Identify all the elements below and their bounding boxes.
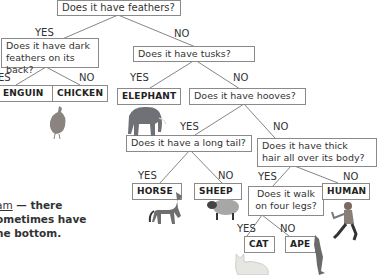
label-yes-hair: YES	[258, 171, 277, 182]
caption-line-1-rest: — there	[13, 199, 63, 211]
caption-line-3: he bottom.	[0, 226, 86, 240]
elephant-picture	[125, 104, 167, 138]
label-no-walk: NO	[280, 223, 295, 234]
cat-picture	[232, 250, 272, 275]
label-yes-walk: YES	[237, 223, 256, 234]
horse-picture	[148, 190, 188, 228]
human-picture	[330, 200, 364, 242]
label-no-feathers: NO	[174, 28, 189, 39]
label-yes-hooves: YES	[180, 121, 199, 132]
question-four-legs: Does it walk on four legs?	[248, 186, 324, 216]
sheep-picture	[205, 197, 241, 221]
label-yes-tail: YES	[138, 170, 157, 181]
question-dark-feathers: Does it have dark feathers on its back?	[1, 38, 99, 68]
leaf-human: HUMAN	[322, 183, 370, 200]
caption-line-2: ometimes have	[0, 212, 86, 226]
leaf-ape: APE	[285, 236, 316, 253]
question-hair-line1: Does it have thick	[262, 140, 372, 152]
caption-line-1: am — there	[0, 198, 86, 212]
label-no-hair: NO	[343, 171, 358, 182]
question-feathers: Does it have feathers?	[57, 0, 181, 16]
question-hair-line2: hair all over its body?	[262, 152, 372, 164]
caption-note: am — there ometimes have he bottom.	[0, 198, 86, 240]
label-yes-tusks: YES	[130, 72, 149, 83]
label-no-hooves: NO	[273, 121, 288, 132]
caption-underlined-word: am	[0, 199, 13, 211]
label-yes-feathers: YES	[35, 27, 54, 38]
question-walk-line2: on four legs?	[253, 200, 319, 212]
question-walk-line1: Does it walk	[253, 188, 319, 200]
label-no-tusks: NO	[233, 72, 248, 83]
label-no-dark: NO	[79, 72, 94, 83]
question-tusks: Does it have tusks?	[133, 46, 255, 62]
leaf-chicken: CHICKEN	[52, 85, 108, 102]
ape-picture	[313, 235, 329, 275]
leaf-penguin: ENGUIN	[0, 85, 55, 102]
question-thick-hair: Does it have thick hair all over its bod…	[257, 138, 377, 167]
question-dark-line1: Does it have dark	[6, 40, 94, 52]
question-hooves: Does it have hooves?	[189, 88, 306, 105]
label-yes-dark: ES	[0, 72, 11, 83]
label-no-tail: NO	[218, 170, 233, 181]
leaf-elephant: ELEPHANT	[117, 88, 181, 105]
chicken-picture	[47, 104, 69, 140]
